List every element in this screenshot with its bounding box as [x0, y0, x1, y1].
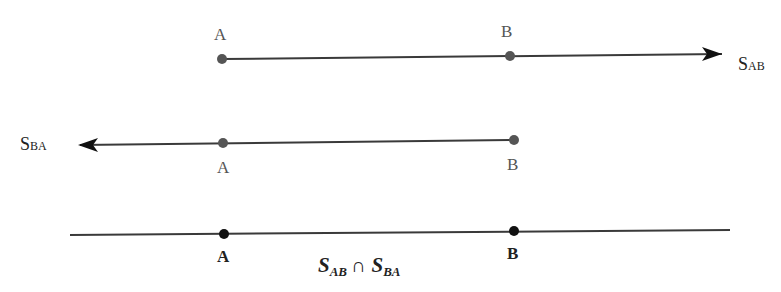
- intersection-point-a: [219, 229, 229, 239]
- ray-sab-point-b: [505, 51, 515, 61]
- ray-sba-line: [80, 140, 514, 145]
- ray-sab: A B SAB: [214, 22, 765, 74]
- ray-sba-name: SBA: [20, 134, 47, 154]
- ray-sba-label-b: B: [507, 155, 518, 174]
- ray-sab-point-a: [217, 54, 227, 64]
- intersection-line: [70, 230, 730, 235]
- intersection-line-group: A B SAB∩SBA: [70, 226, 730, 279]
- ray-sab-label-b: B: [501, 22, 512, 41]
- ray-sba-label-a: A: [217, 158, 230, 177]
- intersection-expression: SAB∩SBA: [318, 253, 401, 279]
- intersection-label-a: A: [217, 247, 230, 266]
- intersection-label-b: B: [507, 244, 518, 263]
- diagram-canvas: A B SAB A B SBA A B SAB∩SBA: [0, 0, 781, 292]
- ray-sab-label-a: A: [214, 25, 227, 44]
- ray-sab-line: [222, 54, 722, 59]
- ray-sba-point-b: [509, 135, 519, 145]
- ray-sba-point-a: [218, 138, 228, 148]
- ray-sab-name: SAB: [738, 54, 765, 74]
- ray-sba: A B SBA: [20, 134, 519, 177]
- intersection-point-b: [509, 226, 519, 236]
